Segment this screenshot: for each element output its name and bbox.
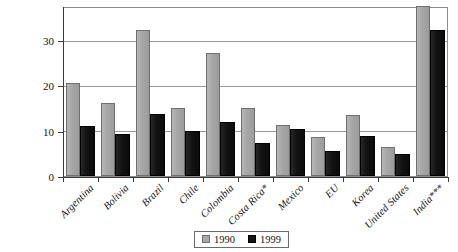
bar-chart: 0102030 ArgentinaBoliviaBrazilChileColom… [0,0,458,252]
black-swatch-icon [248,235,256,243]
legend-item-1990: 1990 [202,234,235,245]
gray-swatch-icon [202,235,210,243]
category-label: Argentina [0,182,96,252]
legend-label: 1990 [214,234,235,245]
x-axis-category-labels: ArgentinaBoliviaBrazilChileColombiaCosta… [0,0,458,252]
legend-label: 1999 [260,234,281,245]
chart-legend: 1990 1999 [194,231,289,248]
legend-item-1999: 1999 [248,234,281,245]
